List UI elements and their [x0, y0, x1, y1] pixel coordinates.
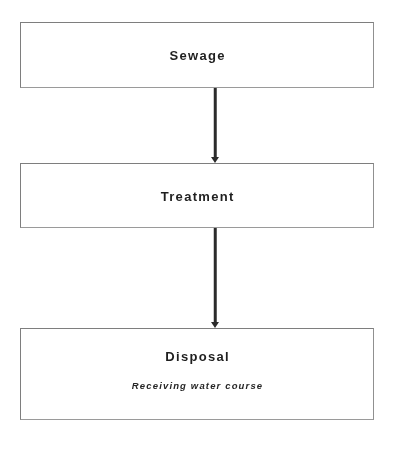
flow-node-sewage-label: Sewage [21, 48, 373, 63]
flow-node-treatment: Treatment [20, 163, 374, 228]
flow-node-treatment-content: Treatment [21, 188, 373, 203]
flow-node-treatment-label: Treatment [21, 188, 373, 203]
flow-node-disposal-subtitle: Receiving water course [21, 380, 373, 391]
flow-node-disposal: Disposal Receiving water course [20, 328, 374, 420]
flow-diagram-canvas: Sewage Treatment Disposal Receiving wate… [0, 0, 396, 449]
flow-node-disposal-content: Disposal Receiving water course [21, 349, 373, 391]
flow-connector-sewage-to-treatment [214, 88, 217, 160]
flow-node-disposal-label: Disposal [21, 349, 373, 364]
flow-node-sewage: Sewage [20, 22, 374, 88]
flow-connector-treatment-to-disposal [214, 228, 217, 325]
flow-node-sewage-content: Sewage [21, 48, 373, 63]
